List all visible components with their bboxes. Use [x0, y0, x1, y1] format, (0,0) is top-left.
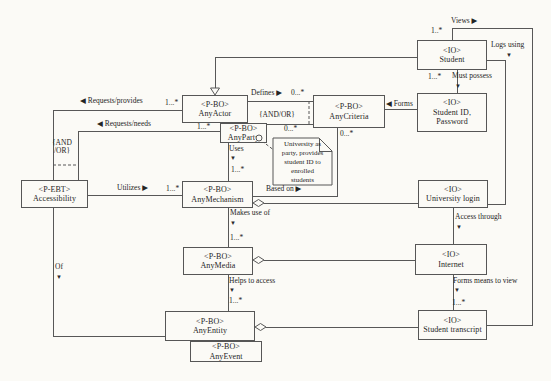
- label-requests-needs-mult: 1...*: [197, 123, 210, 131]
- label-and-or-right: {AND/OR}: [259, 111, 295, 119]
- label-utilizes: Utilizes ▶: [117, 184, 148, 192]
- aggregation-diamond-icon: [253, 257, 264, 264]
- label-makes-use-of: Makes use of: [230, 209, 270, 217]
- label-must-possess-arrow: ▼: [455, 82, 461, 90]
- label-access-through: Access through: [455, 213, 501, 221]
- label-helps-to-access: Helps to access: [229, 277, 275, 285]
- label-uses-arrow: ▼: [230, 154, 236, 162]
- label-utilizes-mult: 1...*: [166, 185, 179, 193]
- label-based-on-mult: 0...*: [340, 130, 353, 138]
- label-requests-provides-mult: 1...*: [165, 99, 178, 107]
- label-party-criteria-mult: 0...*: [284, 125, 297, 133]
- label-defines-mult: 0...*: [291, 89, 304, 97]
- label-helps-to-access-arrow: ▼: [229, 286, 235, 294]
- label-logs-using-arrow: ▼: [506, 51, 512, 59]
- label-of-arrow: ▼: [56, 273, 62, 281]
- label-makes-use-of-mult: 1...*: [230, 234, 243, 242]
- label-helps-to-access-mult: 1...*: [229, 297, 242, 305]
- label-forms-means-mult: 1...*: [452, 299, 465, 307]
- label-defines: Defines ▶: [251, 89, 282, 97]
- label-based-on: Based on ▶: [266, 185, 301, 193]
- label-must-possess: Must possess: [452, 72, 492, 80]
- label-uses-mult: 1...*: [231, 166, 244, 174]
- label-makes-use-of-arrow: ▼: [230, 219, 236, 227]
- label-requests-needs: ◀ Requests/needs: [97, 120, 151, 128]
- label-and-or-left-2: /OR}: [54, 147, 70, 155]
- note-anchor-circle-icon: [256, 135, 262, 141]
- label-logs-using: Logs using: [491, 41, 524, 49]
- label-views: Views ▶: [451, 17, 477, 25]
- label-must-possess-mult: 1...*: [428, 73, 441, 81]
- label-forms-means: Forms means to view: [453, 277, 517, 285]
- aggregation-diamond-icon: [255, 324, 266, 331]
- stability-model-diagram: University asparty, providesstudent ID t…: [0, 0, 551, 381]
- label-views-mult: 1..*: [431, 27, 442, 35]
- label-uses: Uses: [229, 145, 244, 153]
- label-of: Of: [55, 263, 63, 271]
- label-forms: ◀ Forms: [386, 100, 413, 108]
- generalization-arrow-icon: [211, 88, 220, 95]
- label-forms-means-arrow: ▼: [454, 286, 460, 294]
- label-access-through-arrow: ▼: [456, 223, 462, 231]
- aggregation-diamond-icon: [253, 200, 264, 207]
- label-requests-provides: ◀ Requests/provides: [80, 97, 143, 105]
